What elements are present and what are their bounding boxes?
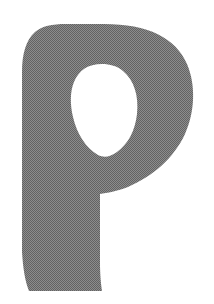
image-canvas: P Bold rounded capital letter P — [0, 0, 214, 304]
letter-p-glyph — [0, 0, 214, 304]
letter-p-svg — [0, 0, 214, 304]
glyph-body — [0, 0, 214, 304]
